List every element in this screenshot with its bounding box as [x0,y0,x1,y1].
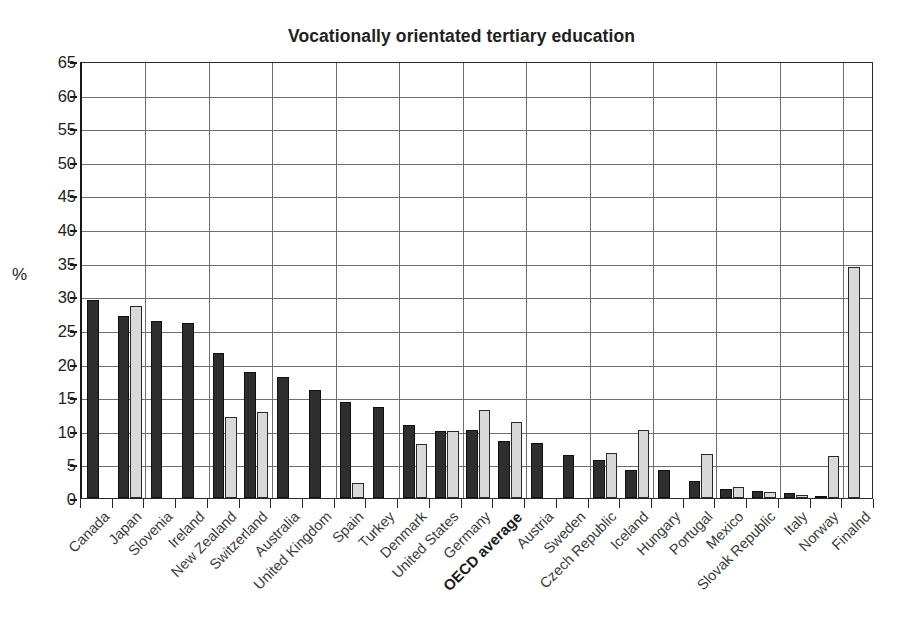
x-axis-labels: CanadaJapanSloveniaIrelandNew ZealandSwi… [0,0,923,640]
bar-chart: Vocationally orientated tertiary educati… [0,0,923,640]
